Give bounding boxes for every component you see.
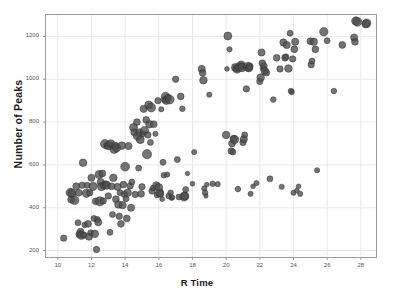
- data-point: [132, 191, 138, 197]
- data-point: [134, 119, 141, 126]
- data-point: [185, 171, 189, 175]
- data-point: [352, 38, 359, 45]
- x-tick-label: 18: [180, 262, 204, 268]
- data-points: [60, 17, 370, 253]
- data-point: [180, 106, 186, 112]
- data-point: [160, 197, 165, 202]
- data-point: [339, 42, 346, 49]
- data-point: [177, 93, 184, 100]
- data-point: [181, 192, 189, 200]
- x-tick-label: 28: [349, 262, 373, 268]
- data-point: [124, 189, 132, 197]
- data-point: [289, 56, 295, 62]
- data-point: [123, 215, 130, 222]
- data-point: [95, 219, 102, 226]
- data-point: [271, 97, 277, 103]
- data-point: [165, 95, 174, 104]
- data-point: [121, 162, 130, 171]
- data-point: [204, 194, 208, 198]
- data-point: [312, 46, 319, 53]
- data-point: [298, 191, 303, 196]
- data-point: [159, 107, 164, 112]
- data-point: [192, 149, 197, 154]
- x-tick-label: 16: [147, 262, 171, 268]
- data-point: [107, 229, 113, 235]
- data-point: [248, 191, 253, 196]
- data-point: [222, 131, 230, 139]
- data-point: [120, 181, 127, 188]
- data-point: [283, 54, 289, 60]
- data-point: [207, 92, 212, 97]
- y-tick-label: 600: [15, 161, 39, 167]
- data-point: [273, 54, 280, 61]
- data-point: [254, 181, 259, 186]
- data-point: [100, 198, 106, 204]
- data-point: [172, 76, 178, 82]
- data-point: [224, 32, 232, 40]
- data-point: [225, 67, 230, 72]
- data-point: [309, 58, 315, 64]
- y-tick-label: 800: [15, 118, 39, 124]
- data-point: [142, 150, 151, 159]
- plot-area: [0, 0, 394, 297]
- data-point: [324, 38, 330, 44]
- data-point: [215, 182, 220, 187]
- data-point: [170, 195, 175, 200]
- data-point: [70, 196, 79, 205]
- data-point: [150, 121, 157, 128]
- data-point: [75, 189, 82, 196]
- data-point: [99, 170, 106, 177]
- data-point: [110, 212, 116, 218]
- data-point: [263, 70, 269, 76]
- data-point: [147, 139, 153, 145]
- data-point: [277, 66, 283, 72]
- data-point: [363, 19, 371, 27]
- data-point: [138, 190, 145, 197]
- x-tick-label: 14: [113, 262, 137, 268]
- data-point: [331, 88, 337, 94]
- data-point: [110, 174, 118, 182]
- data-point: [136, 165, 142, 171]
- data-point: [283, 41, 290, 48]
- data-point: [204, 182, 209, 187]
- x-tick-label: 12: [79, 262, 103, 268]
- data-point: [105, 193, 111, 199]
- y-tick-label: 1000: [15, 75, 39, 81]
- data-point: [227, 47, 232, 52]
- x-tick-label: 22: [248, 262, 272, 268]
- x-tick-label: 10: [46, 262, 70, 268]
- data-point: [242, 132, 248, 138]
- data-point: [267, 176, 273, 182]
- data-point: [147, 103, 156, 112]
- data-point: [93, 246, 99, 252]
- data-point: [129, 179, 135, 185]
- data-point: [199, 69, 206, 76]
- scatter-chart: Number of Peaks R Time 20040060080010001…: [0, 0, 394, 297]
- x-tick-label: 24: [282, 262, 306, 268]
- data-point: [200, 77, 208, 85]
- data-point: [127, 204, 134, 211]
- data-point: [210, 181, 216, 187]
- data-point: [353, 17, 362, 26]
- data-point: [60, 235, 66, 241]
- data-point: [279, 184, 284, 189]
- data-point: [125, 142, 132, 149]
- data-point: [320, 28, 328, 36]
- data-point: [155, 97, 161, 103]
- data-point: [73, 183, 80, 190]
- data-point: [235, 186, 241, 192]
- data-point: [292, 38, 299, 45]
- y-tick-label: 200: [15, 247, 39, 253]
- data-point: [116, 213, 122, 219]
- x-tick-label: 26: [315, 262, 339, 268]
- data-point: [174, 157, 180, 163]
- data-point: [145, 132, 151, 138]
- data-point: [190, 181, 195, 186]
- data-point: [291, 46, 298, 53]
- data-point: [118, 142, 126, 150]
- data-point: [153, 131, 158, 136]
- data-point: [91, 230, 99, 238]
- data-point: [230, 135, 238, 143]
- x-axis-label: R Time: [0, 277, 394, 288]
- data-point: [230, 149, 236, 155]
